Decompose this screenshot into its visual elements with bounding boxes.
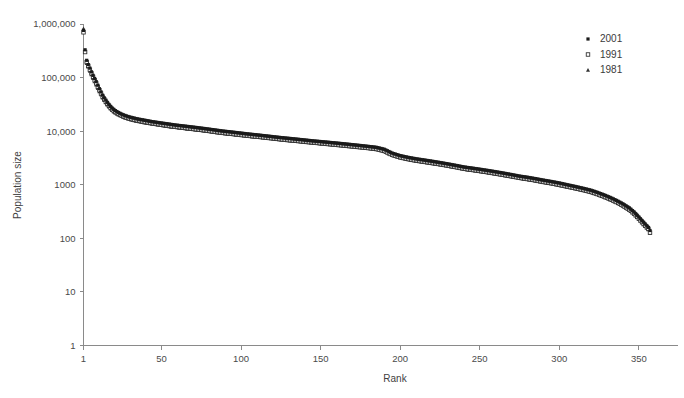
chart-canvas: 110100100010,000100,0001,000,000 Populat…	[0, 0, 684, 398]
data-point	[648, 229, 651, 232]
y-tick-label: 10,000	[46, 126, 75, 137]
data-point	[99, 90, 102, 93]
data-point	[647, 226, 650, 229]
data-point	[82, 29, 85, 32]
data-point	[93, 77, 96, 80]
data-point	[90, 70, 93, 73]
y-tick-label: 10	[65, 286, 76, 297]
legend-label-1981: 1981	[600, 64, 623, 75]
data-point	[98, 87, 101, 90]
x-tick-label: 300	[551, 353, 567, 364]
x-tick-label: 1	[81, 353, 86, 364]
legend-label-1991: 1991	[600, 49, 623, 60]
x-tick-label: 200	[392, 353, 408, 364]
x-tick-label: 350	[631, 353, 647, 364]
y-axis-title: Population size	[12, 151, 23, 219]
legend-marker-1991	[586, 53, 590, 57]
x-axis-title: Rank	[383, 373, 407, 384]
data-point	[88, 67, 91, 70]
x-tick-label: 100	[233, 353, 249, 364]
data-point	[95, 80, 98, 83]
data-point	[91, 74, 94, 77]
legend-label-2001: 2001	[600, 33, 623, 44]
x-tick-label: 150	[313, 353, 329, 364]
y-tick-label: 1	[70, 340, 75, 351]
data-point	[87, 63, 90, 66]
x-tick-label: 50	[156, 353, 167, 364]
chart-background	[0, 0, 684, 398]
data-point	[85, 59, 88, 62]
y-tick-label: 100,000	[41, 72, 75, 83]
legend-marker-2001	[586, 37, 589, 40]
y-tick-label: 1000	[54, 179, 75, 190]
data-point	[96, 84, 99, 87]
rank-size-chart: 110100100010,000100,0001,000,000 Populat…	[0, 0, 684, 398]
x-tick-label: 250	[472, 353, 488, 364]
y-tick-label: 100	[60, 233, 76, 244]
y-tick-label: 1,000,000	[33, 18, 75, 29]
data-point	[83, 48, 86, 51]
